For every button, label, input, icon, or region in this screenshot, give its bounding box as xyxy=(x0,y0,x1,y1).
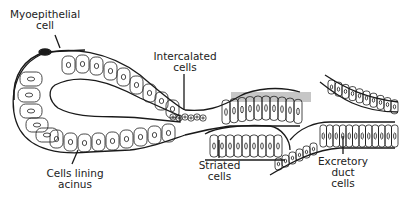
cell-nucleus xyxy=(166,130,170,135)
cell-nucleus xyxy=(94,63,98,68)
cell-nucleus xyxy=(312,147,314,150)
cell-nucleus xyxy=(225,109,228,116)
cell-nucleus xyxy=(297,108,300,115)
epithelial-cell xyxy=(170,114,176,120)
cell-nucleus xyxy=(393,105,395,109)
epithelial-cell xyxy=(76,55,89,73)
epithelial-cell xyxy=(92,133,105,151)
epithelial-cell xyxy=(356,89,363,103)
cell-nucleus xyxy=(394,133,396,139)
epithelial-cell xyxy=(194,114,200,120)
cell-nucleus xyxy=(273,105,276,112)
epithelial-cell xyxy=(226,135,234,157)
cell-nucleus xyxy=(277,143,280,149)
cell-nucleus xyxy=(121,74,125,79)
cell-nucleus xyxy=(361,133,363,139)
cell-nucleus xyxy=(269,143,272,149)
cell-nucleus xyxy=(134,82,138,87)
cell-nucleus xyxy=(322,133,324,139)
cell-nucleus xyxy=(305,150,307,153)
intercalated-duct-upper xyxy=(185,89,300,111)
epithelial-cell xyxy=(20,104,42,118)
leader-cells-lining xyxy=(72,150,78,164)
cell-nucleus xyxy=(374,133,376,139)
epithelial-cell xyxy=(346,125,353,147)
epithelial-cell xyxy=(266,135,274,157)
label-excretory-duct-cells: Excretory duct cells xyxy=(312,156,374,189)
epithelial-cell xyxy=(353,125,360,147)
epithelial-cell xyxy=(78,134,91,152)
epithelial-cell xyxy=(379,125,386,147)
cell-nucleus xyxy=(249,105,252,112)
cell-nucleus xyxy=(138,134,142,139)
myoepithelial-sheath xyxy=(14,50,85,100)
cell-nucleus xyxy=(289,107,292,114)
epithelial-cell xyxy=(62,56,75,74)
epithelial-cell xyxy=(188,115,194,121)
cell-nucleus xyxy=(237,143,240,149)
cell-nucleus xyxy=(265,105,268,112)
cell-nucleus xyxy=(196,116,198,118)
cell-nucleus xyxy=(152,132,156,137)
cell-nucleus xyxy=(335,133,337,139)
cell-nucleus xyxy=(257,105,260,112)
cell-nucleus xyxy=(66,62,70,67)
cell-nucleus xyxy=(277,162,279,165)
cell-nucleus xyxy=(147,90,151,95)
cell-nucleus xyxy=(221,143,224,149)
epithelial-cell xyxy=(258,135,266,157)
cell-nucleus xyxy=(241,106,244,113)
epithelial-cell xyxy=(370,93,377,107)
diagram-canvas: Myoepithelial cell Intercalated cells Ce… xyxy=(0,0,405,206)
cell-nucleus xyxy=(281,106,284,113)
cell-nucleus xyxy=(213,143,216,149)
cell-nucleus xyxy=(184,116,186,118)
epithelial-cell xyxy=(117,68,130,86)
epithelial-cell xyxy=(234,135,242,157)
cell-nucleus xyxy=(202,117,204,119)
cell-nucleus xyxy=(124,136,128,141)
cell-nucleus xyxy=(387,133,389,139)
cell-nucleus xyxy=(96,139,100,144)
leader-myoepithelial xyxy=(55,35,60,48)
cell-nucleus xyxy=(43,133,50,137)
cell-nucleus xyxy=(68,139,72,144)
cell-nucleus xyxy=(386,103,388,107)
epithelial-cell xyxy=(333,125,340,147)
cell-nucleus xyxy=(27,109,34,113)
cell-nucleus xyxy=(379,100,381,104)
cell-nucleus xyxy=(108,68,112,73)
cell-nucleus xyxy=(348,133,350,139)
cell-nucleus xyxy=(178,117,180,119)
cell-nucleus xyxy=(261,143,264,149)
epithelial-cell xyxy=(230,99,238,123)
acinus-lumen xyxy=(50,79,180,122)
epithelial-cell xyxy=(106,132,119,150)
epithelial-cell xyxy=(104,62,117,80)
epithelial-cell xyxy=(134,128,147,146)
cell-nucleus xyxy=(329,133,331,139)
cell-nucleus xyxy=(344,89,346,93)
epithelial-cell xyxy=(372,125,379,147)
cell-nucleus xyxy=(229,143,232,149)
cell-nucleus xyxy=(33,123,40,127)
cell-nucleus xyxy=(351,92,353,96)
cell-nucleus xyxy=(291,156,293,159)
cell-nucleus xyxy=(190,117,192,119)
cell-nucleus xyxy=(358,94,360,98)
label-cells-lining-acinus: Cells lining acinus xyxy=(40,168,110,190)
myoepithelial-cell-nucleus xyxy=(39,49,51,55)
cell-nucleus xyxy=(82,140,86,145)
epithelial-cell xyxy=(242,135,250,157)
cell-nucleus xyxy=(170,106,174,111)
epithelial-cell xyxy=(366,125,373,147)
cell-nucleus xyxy=(110,138,114,143)
cell-nucleus xyxy=(253,143,256,149)
epithelial-cell xyxy=(274,135,282,157)
epithelial-cell xyxy=(327,125,334,147)
cell-nucleus xyxy=(25,93,32,97)
cell-nucleus xyxy=(80,61,84,66)
epithelial-cell xyxy=(200,115,206,121)
cell-nucleus xyxy=(284,159,286,162)
cell-nucleus xyxy=(245,143,248,149)
